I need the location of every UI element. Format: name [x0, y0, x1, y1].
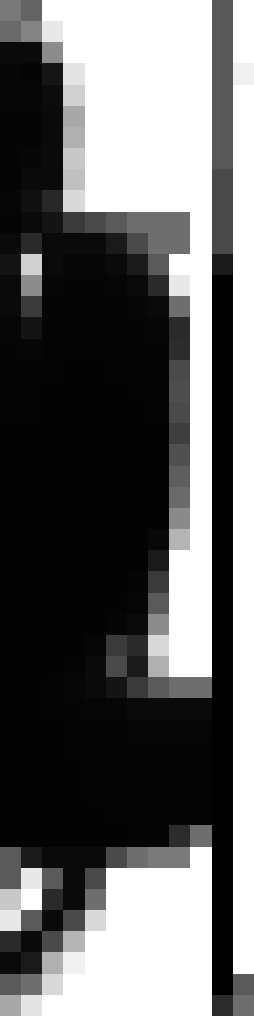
pixel-block — [85, 868, 106, 889]
pixel-block — [0, 741, 21, 762]
pixel-block — [127, 508, 148, 529]
pixel-block — [127, 974, 148, 995]
pixel-block — [169, 444, 190, 465]
pixel-block — [21, 847, 42, 868]
pixel-block — [190, 635, 211, 656]
pixel-block — [106, 635, 127, 656]
pixel-block — [63, 42, 84, 63]
pixel-block — [169, 0, 190, 21]
pixel-block — [190, 233, 211, 254]
pixel-grid — [0, 0, 254, 1016]
pixel-block — [127, 571, 148, 592]
pixel-block — [21, 148, 42, 169]
pixel-block — [169, 995, 190, 1016]
pixel-block — [212, 85, 233, 106]
pixel-block — [148, 42, 169, 63]
pixel-block — [106, 423, 127, 444]
pixel-block — [233, 0, 254, 21]
pixel-block — [233, 995, 254, 1016]
pixel-block — [169, 762, 190, 783]
pixel-block — [85, 783, 106, 804]
pixel-block — [190, 42, 211, 63]
pixel-block — [106, 444, 127, 465]
pixel-block — [148, 444, 169, 465]
pixel-block — [42, 423, 63, 444]
pixel-block — [0, 487, 21, 508]
pixel-block — [0, 571, 21, 592]
pixel-block — [233, 381, 254, 402]
pixel-block — [85, 952, 106, 973]
pixel-block — [21, 85, 42, 106]
pixel-block — [42, 635, 63, 656]
pixel-block — [0, 423, 21, 444]
pixel-block — [0, 106, 21, 127]
pixel-block — [63, 190, 84, 211]
pixel-block — [42, 868, 63, 889]
pixel-block — [106, 783, 127, 804]
pixel-block — [212, 402, 233, 423]
pixel-block — [169, 741, 190, 762]
pixel-block — [63, 339, 84, 360]
pixel-block — [233, 42, 254, 63]
pixel-block — [127, 487, 148, 508]
pixel-block — [42, 974, 63, 995]
pixel-block — [0, 296, 21, 317]
pixel-block — [85, 614, 106, 635]
pixel-block — [169, 825, 190, 846]
pixel-block — [63, 508, 84, 529]
pixel-block — [148, 0, 169, 21]
pixel-block — [42, 614, 63, 635]
pixel-block — [127, 910, 148, 931]
pixel-block — [169, 233, 190, 254]
pixel-block — [85, 931, 106, 952]
pixel-block — [0, 402, 21, 423]
pixel-block — [148, 656, 169, 677]
pixel-block — [42, 339, 63, 360]
pixel-block — [63, 169, 84, 190]
pixel-block — [190, 677, 211, 698]
pixel-block — [0, 825, 21, 846]
pixel-block — [106, 63, 127, 84]
pixel-block — [127, 995, 148, 1016]
pixel-block — [169, 698, 190, 719]
pixel-block — [63, 381, 84, 402]
pixel-block — [148, 762, 169, 783]
pixel-block — [169, 275, 190, 296]
pixel-block — [212, 127, 233, 148]
pixel-block — [42, 677, 63, 698]
pixel-block — [106, 889, 127, 910]
pixel-block — [127, 656, 148, 677]
pixel-block — [233, 106, 254, 127]
pixel-block — [212, 931, 233, 952]
pixel-block — [21, 63, 42, 84]
pixel-block — [127, 635, 148, 656]
pixel-block — [190, 63, 211, 84]
pixel-block — [233, 762, 254, 783]
pixel-block — [127, 339, 148, 360]
pixel-block — [42, 402, 63, 423]
pixel-block — [42, 910, 63, 931]
pixel-block — [212, 804, 233, 825]
pixel-block — [190, 698, 211, 719]
pixel-block — [148, 169, 169, 190]
pixel-block — [127, 0, 148, 21]
pixel-block — [212, 995, 233, 1016]
pixel-block — [190, 275, 211, 296]
pixel-block — [85, 444, 106, 465]
pixel-block — [63, 254, 84, 275]
pixel-block — [212, 275, 233, 296]
pixel-block — [190, 720, 211, 741]
pixel-block — [212, 190, 233, 211]
pixel-block — [190, 931, 211, 952]
pixel-block — [212, 910, 233, 931]
pixel-block — [127, 593, 148, 614]
pixel-block — [127, 190, 148, 211]
pixel-block — [169, 212, 190, 233]
pixel-block — [21, 0, 42, 21]
pixel-block — [106, 931, 127, 952]
pixel-block — [0, 444, 21, 465]
pixel-block — [42, 275, 63, 296]
pixel-block — [233, 423, 254, 444]
pixel-block — [42, 254, 63, 275]
pixel-block — [233, 550, 254, 571]
